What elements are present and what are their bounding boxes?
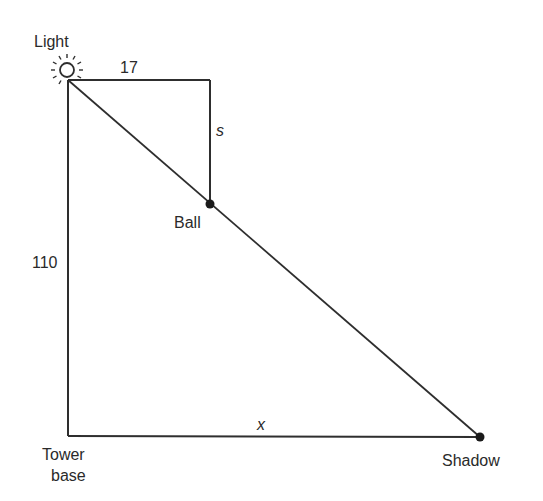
tower-base-label-line1: Tower: [42, 446, 85, 463]
top-length-label: 17: [120, 59, 138, 76]
ball-label: Ball: [174, 214, 201, 231]
light-label: Light: [34, 33, 69, 50]
ground-line: [68, 436, 480, 437]
shadow-dot: [476, 433, 485, 442]
tower-base-label-line2: base: [51, 467, 86, 484]
diagram-canvas: Light 17 s Ball 110 x Tower base Shadow: [0, 0, 543, 501]
shadow-label: Shadow: [442, 452, 500, 469]
ball-dot: [206, 200, 215, 209]
light-ray: [68, 80, 480, 437]
x-label: x: [256, 416, 266, 433]
height-label: 110: [32, 254, 58, 271]
s-label: s: [216, 122, 224, 139]
